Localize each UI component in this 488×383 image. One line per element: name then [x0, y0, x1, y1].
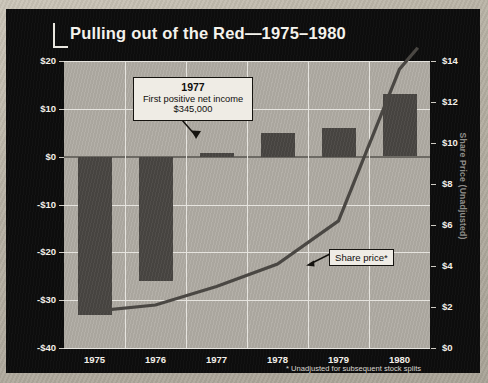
right-axis-tick-label: $4 [442, 260, 453, 271]
right-axis-tick-mark [431, 266, 436, 267]
callout-box-share-price: Share price* [329, 249, 394, 266]
gridline-horizontal [64, 348, 430, 349]
x-axis-tick-label: 1976 [126, 354, 186, 365]
right-axis-tick-label: $10 [442, 137, 458, 148]
x-axis-tick-label: 1977 [187, 354, 247, 365]
chart-footnote: * Unadjusted for subsequent stock splits [286, 364, 421, 373]
right-axis-tick-mark [431, 348, 436, 349]
left-axis-tick-label: -$40 [14, 342, 56, 353]
right-axis-tick-label: $8 [442, 178, 453, 189]
chart-figure-panel: Pulling out of the Red—1975–1980 Net Inc… [6, 9, 480, 373]
right-axis-title: Share Price (Unadjusted) [458, 101, 468, 271]
chart-title: Pulling out of the Red—1975–1980 [70, 24, 346, 43]
title-bracket-rule [53, 23, 68, 48]
right-axis-tick-mark [431, 143, 436, 144]
right-axis-tick-mark [431, 102, 436, 103]
callout-1977-value: $345,000 [137, 104, 249, 114]
left-axis-tick-label: -$30 [14, 294, 56, 305]
left-axis-tick-label: -$20 [14, 246, 56, 257]
right-axis-tick-label: $14 [442, 55, 458, 66]
right-axis-tick-mark [431, 307, 436, 308]
right-axis-tick-label: $0 [442, 342, 453, 353]
x-axis-tick-label: 1975 [65, 354, 125, 365]
right-axis-tick-label: $6 [442, 219, 453, 230]
left-axis-tick-label: $0 [14, 151, 56, 162]
right-axis-tick-mark [431, 184, 436, 185]
left-axis-tick-label: $10 [14, 103, 56, 114]
callout-1977-description: First positive net income [137, 94, 249, 104]
left-axis-tick-label: $20 [14, 55, 56, 66]
right-axis-tick-mark [431, 225, 436, 226]
right-axis-tick-label: $2 [442, 301, 453, 312]
callout-arrow-share-price-icon [304, 251, 332, 267]
callout-1977-year: 1977 [137, 82, 249, 94]
right-axis-tick-mark [431, 61, 436, 62]
left-axis-tick-label: -$10 [14, 199, 56, 210]
callout-box-1977-net-income: 1977 First positive net income $345,000 [133, 77, 253, 121]
right-axis-tick-label: $12 [442, 96, 458, 107]
